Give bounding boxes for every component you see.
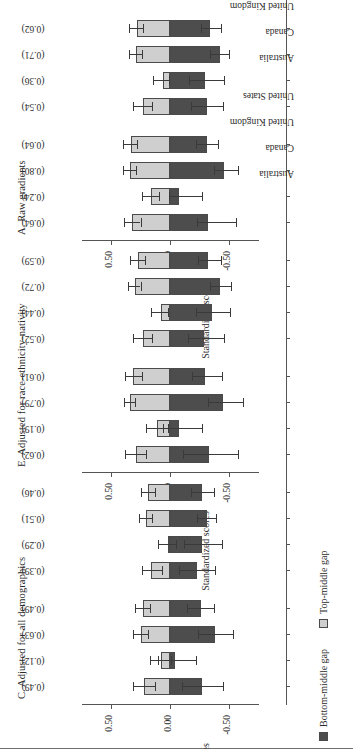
error-bar-cap [153,76,154,85]
chart-figure: A. Raw gradients-0.500.000.50Standardize… [0,0,353,749]
legend-row: Bottom-middle gapTop-middle gap [318,535,329,742]
error-bar-cap [124,218,125,227]
error-bar-top [150,660,171,661]
category-axis-tick [286,454,290,455]
category-label-united-kingdom: United Kingdom [204,1,294,11]
error-bar-cap [142,50,143,59]
category-label-united-kingdom: United Kingdom [204,117,294,127]
figure-rotator: A. Raw gradients-0.500.000.50Standardize… [0,0,353,749]
y-axis-tick-label: 0.50 [104,715,114,749]
bar-segment-bottom-middle-gap [170,47,220,64]
error-bar-cap [133,630,134,639]
error-bar-top [146,428,167,429]
bar-segment-top-middle-gap [151,563,170,580]
error-bar-cap [139,514,140,523]
error-bar-cap [141,218,142,227]
bar-segment-bottom-middle-gap [170,679,202,696]
error-bar-cap [171,656,172,665]
bar-segment-bottom-middle-gap [170,601,201,618]
error-bar-bottom [198,634,232,635]
error-bar-cap [191,488,192,497]
bar-segment-bottom-middle-gap [170,163,224,180]
y-axis-tick [170,473,171,477]
bar-segment-bottom-middle-gap [170,279,220,296]
error-bar-cap [155,488,156,497]
bar-segment-top-middle-gap [138,253,170,270]
error-bar-bottom [184,544,222,545]
error-bar-cap [142,566,143,575]
error-bar-cap [214,604,215,613]
bar-segment-bottom-middle-gap [170,421,179,438]
error-bar-cap [222,372,223,381]
error-bar-cap [221,24,222,33]
error-bar-cap [223,102,224,111]
error-bar-bottom [210,286,231,287]
error-bar-cap [150,604,151,613]
error-bar-cap [208,398,209,407]
error-bar-bottom [197,518,216,519]
error-bar-cap [196,308,197,317]
error-bar-cap [192,372,193,381]
error-bar-cap [215,566,216,575]
error-bar-cap [133,102,134,111]
error-bar-cap [210,282,211,291]
error-bar-cap [187,604,188,613]
bar-value-label: (0.63) [15,630,51,640]
bar-value-label: (0.39) [15,566,51,576]
bar-segment-bottom-middle-gap [170,305,212,322]
bar-value-label: (0.71) [15,50,51,60]
bar-segment-bottom-middle-gap [170,99,207,116]
error-bar-cap [141,488,142,497]
error-bar-top [142,570,162,571]
error-bar-bottom [208,402,243,403]
error-bar-cap [197,218,198,227]
error-bar-bottom [192,376,222,377]
error-bar-bottom [188,338,225,339]
error-bar-cap [150,656,151,665]
legend-label: Top-middle gap [318,551,329,614]
error-bar-cap [214,166,215,175]
category-axis-tick [286,428,290,429]
error-bar-cap [221,256,222,265]
error-bar-cap [198,256,199,265]
error-bar-cap [223,682,224,691]
error-bar-top [133,338,152,339]
error-bar-cap [214,488,215,497]
error-bar-cap [230,308,231,317]
error-bar-top [133,634,147,635]
bar-value-label: (0.80) [15,166,51,176]
bar-value-label: (0.62) [15,24,51,34]
error-bar-bottom [189,80,224,81]
bar-value-label: (0.79) [15,398,51,408]
category-axis-tick [286,402,290,403]
category-axis-tick [286,660,290,661]
category-axis-tick [286,222,290,223]
error-bar-top [125,376,142,377]
light-square-icon [319,619,328,628]
category-label-united-states: United States [204,91,294,101]
bar-segment-bottom-middle-gap [170,21,210,38]
bar-segment-bottom-middle-gap [170,563,197,580]
y-axis-tick [170,705,171,709]
panel-title: E. Adjusted for race-ethnicity-nativity [16,303,27,467]
error-bar-cap [179,566,180,575]
error-bar-bottom [183,454,238,455]
bar-segment-bottom-middle-gap [170,253,208,270]
legend-item: Bottom-middle gap [318,649,329,741]
error-bar-cap [196,140,197,149]
bar-segment-top-middle-gap [148,485,170,502]
bar-value-label: (0.44) [15,308,51,318]
error-bar-bottom [191,106,223,107]
bar-segment-top-middle-gap [151,189,170,206]
error-bar-cap [142,372,143,381]
dark-square-icon [319,732,328,741]
error-bar-cap [142,192,143,201]
category-axis-tick [286,260,290,261]
category-axis-tick [286,144,290,145]
bar-segment-top-middle-gap [143,601,170,618]
error-bar-top [158,544,176,545]
bar-segment-bottom-middle-gap [170,395,223,412]
error-bar-cap [141,282,142,291]
error-bar-cap [152,102,153,111]
error-bar-cap [183,450,184,459]
